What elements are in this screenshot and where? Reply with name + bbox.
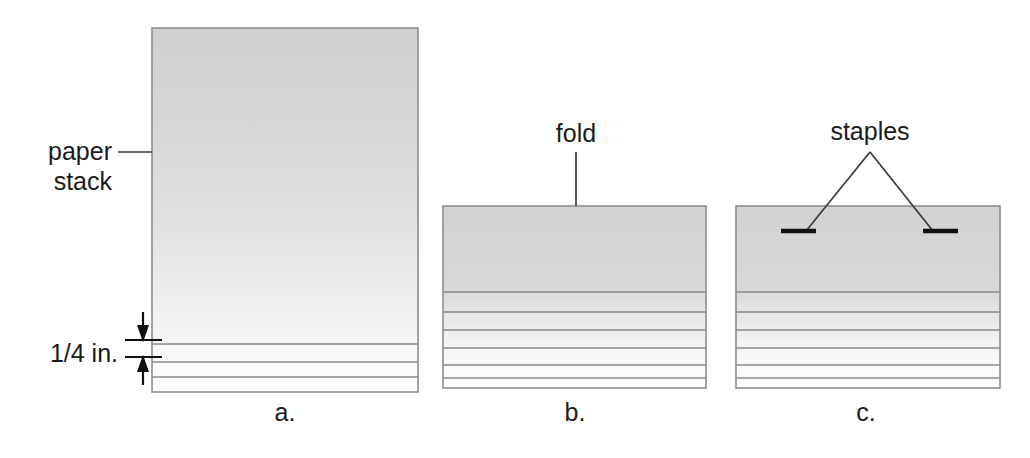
paper-stack-label-line2: stack (54, 167, 113, 195)
caption-c: c. (856, 398, 875, 426)
caption-b: b. (565, 398, 586, 426)
caption-a: a. (275, 398, 296, 426)
panel-a: a. (118, 28, 418, 426)
paper-stack-body-a (152, 28, 418, 392)
paper-stack-label-line1: paper (48, 137, 112, 165)
paper-stack-body-b (443, 206, 706, 388)
staples-label: staples (830, 117, 909, 145)
panel-c: c. (736, 152, 1000, 426)
fold-label: fold (556, 119, 596, 147)
paper-stack-diagram: a. b. (0, 0, 1030, 458)
paper-stack-body-c (736, 206, 1000, 388)
panel-b: b. (443, 152, 706, 426)
dimension-label: 1/4 in. (50, 339, 118, 367)
